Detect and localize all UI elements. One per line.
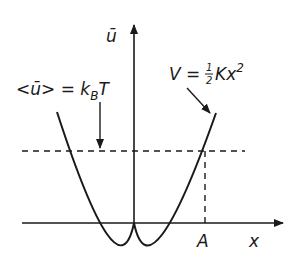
fraction-denominator: 2 xyxy=(206,75,212,86)
potential-kx: Kx xyxy=(215,64,237,84)
mean-energy-label: <ū> = kBT xyxy=(16,79,110,103)
mean-energy-subscript: B xyxy=(90,89,98,103)
parabola-curve xyxy=(57,112,216,245)
amplitude-label: A xyxy=(196,231,209,251)
x-axis-label: x xyxy=(248,231,260,251)
potential-label: V = xyxy=(169,64,200,84)
mean-energy-lhs: <ū> = k xyxy=(16,79,91,99)
potential-exponent: 2 xyxy=(236,61,244,75)
potential-arrow xyxy=(187,88,210,113)
potential-energy-diagram: ū <ū> = kBT V = 1 2 Kx2 A x xyxy=(0,0,302,263)
y-axis-label: ū xyxy=(106,26,117,46)
mean-energy-rhs: T xyxy=(98,79,110,99)
potential-rhs: Kx2 xyxy=(215,61,244,84)
fraction-numerator: 1 xyxy=(206,62,212,73)
potential-lhs: V = xyxy=(169,64,200,84)
